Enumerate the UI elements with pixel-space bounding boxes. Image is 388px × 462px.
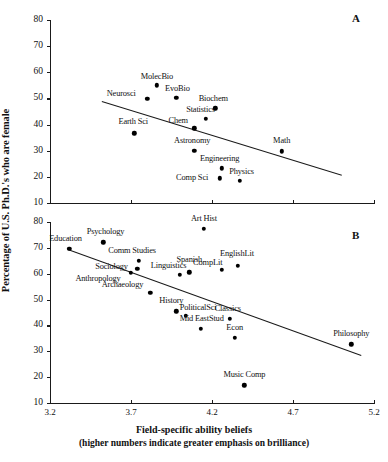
data-point (220, 166, 224, 170)
x-tick (50, 400, 51, 404)
y-tick (47, 377, 51, 378)
x-tick-label: 4.7 (278, 407, 308, 417)
data-point-label: EvoBio (165, 83, 190, 92)
x-tick-label: 3.7 (116, 407, 146, 417)
data-point-label: Archaeology (102, 279, 144, 288)
x-tick (374, 200, 375, 204)
x-tick-label: 4.2 (197, 407, 227, 417)
data-point-label: Comm Studies (108, 246, 156, 255)
data-point-label: Education (49, 233, 82, 242)
data-point-label: Econ (226, 322, 243, 331)
data-point (220, 268, 224, 272)
y-tick (47, 274, 51, 275)
x-tick (293, 200, 294, 204)
y-tick-label: 80 (23, 216, 43, 226)
x-tick-label: 5.2 (359, 407, 388, 417)
data-point-label: Math (273, 136, 290, 145)
data-point (237, 178, 241, 182)
data-point-label: Earth Sci (118, 117, 148, 126)
y-tick (47, 20, 51, 21)
data-point (232, 336, 236, 340)
x-axis-title-line2: (higher numbers indicate greater emphasi… (0, 438, 388, 448)
x-tick (293, 400, 294, 404)
data-point-label: Biochem (199, 94, 228, 103)
data-point-label: Philosophy (333, 329, 369, 338)
figure-scatterplot: Percentage of U.S. Ph.D.'s who are femal… (0, 0, 388, 462)
y-tick (47, 177, 51, 178)
y-tick-label: 70 (23, 242, 43, 252)
data-point (203, 117, 207, 121)
data-point-label: MolecBio (141, 72, 173, 81)
y-tick-label: 40 (23, 319, 43, 329)
data-point-label: Engineering (200, 154, 239, 163)
y-tick-label: 70 (23, 40, 43, 50)
data-point-label: PoliticalSci (180, 302, 217, 311)
data-point-label: Astronomy (174, 135, 210, 144)
y-tick (47, 151, 51, 152)
data-point-label: Statistics (186, 105, 215, 114)
data-point-label: Neurosci (107, 88, 136, 97)
data-point (177, 273, 181, 277)
y-tick (47, 222, 51, 223)
x-axis-title-line1: Field-specific ability beliefs (0, 424, 388, 435)
y-tick-label: 10 (23, 197, 43, 207)
data-point (129, 271, 133, 275)
y-tick (47, 248, 51, 249)
x-tick (212, 200, 213, 204)
data-point (349, 342, 353, 346)
y-tick (47, 98, 51, 99)
data-point (101, 240, 105, 244)
y-tick-label: 10 (23, 397, 43, 407)
y-tick-label: 60 (23, 66, 43, 76)
x-tick (131, 400, 132, 404)
data-point (198, 326, 202, 330)
y-tick-label: 30 (23, 145, 43, 155)
y-tick (47, 351, 51, 352)
y-tick-label: 50 (23, 92, 43, 102)
data-point-label: Music Comp (223, 370, 265, 379)
data-point (148, 291, 152, 295)
x-tick (212, 400, 213, 404)
data-point-label: Psychology (87, 227, 125, 236)
trendline-a (102, 101, 342, 176)
y-tick-label: 30 (23, 345, 43, 355)
data-point (228, 317, 232, 321)
data-point (202, 227, 206, 231)
data-point-label: Chem (168, 116, 187, 125)
data-point (132, 131, 136, 135)
x-tick (374, 400, 375, 404)
data-point (135, 267, 139, 271)
y-tick (47, 125, 51, 126)
y-tick-label: 20 (23, 371, 43, 381)
x-tick-label: 3.2 (35, 407, 65, 417)
data-point-label: Comp Sci (176, 173, 208, 182)
data-point-label: Sociology (95, 262, 128, 271)
panel-a-letter: A (352, 12, 360, 24)
y-tick-label: 50 (23, 294, 43, 304)
y-tick (47, 325, 51, 326)
data-point-label: CompLit (193, 257, 222, 266)
data-point (218, 176, 222, 180)
data-point (137, 259, 141, 263)
x-tick (131, 200, 132, 204)
data-point (187, 270, 191, 274)
data-point-label: EnglishLit (220, 248, 254, 257)
y-tick-label: 40 (23, 119, 43, 129)
y-tick (47, 300, 51, 301)
data-point (174, 309, 178, 313)
data-point (236, 263, 240, 267)
data-point (242, 383, 246, 387)
data-point-label: Mid EastStud (180, 313, 224, 322)
data-point-label: Classics (215, 303, 241, 312)
y-tick-label: 60 (23, 268, 43, 278)
x-tick (50, 200, 51, 204)
y-axis-line-b (50, 222, 51, 403)
data-point (174, 95, 178, 99)
data-point-label: Art Hist (191, 213, 217, 222)
y-tick-label: 20 (23, 171, 43, 181)
y-axis-label: Percentage of U.S. Ph.D.'s who are femal… (0, 0, 14, 400)
data-point (279, 149, 283, 153)
y-tick (47, 72, 51, 73)
y-axis-line-a (50, 20, 51, 203)
data-point (145, 97, 149, 101)
